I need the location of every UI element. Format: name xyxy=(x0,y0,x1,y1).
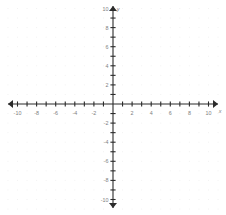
grid-dot xyxy=(17,56,18,57)
grid-dot xyxy=(141,65,142,66)
grid-dot xyxy=(218,170,219,171)
grid-dot xyxy=(27,142,28,143)
grid-dot xyxy=(170,56,171,57)
grid-dot xyxy=(55,209,56,210)
grid-dot xyxy=(84,132,85,133)
grid-dot xyxy=(84,27,85,28)
grid-dot xyxy=(179,65,180,66)
grid-dot xyxy=(84,75,85,76)
grid-dot xyxy=(189,142,190,143)
grid-dot xyxy=(208,65,209,66)
x-axis-tick-label: 10 xyxy=(206,110,212,116)
grid-dot xyxy=(74,189,75,190)
grid-dot xyxy=(208,170,209,171)
grid-dot xyxy=(7,132,8,133)
grid-dot xyxy=(74,18,75,19)
grid-dot xyxy=(179,8,180,9)
grid-dot xyxy=(7,94,8,95)
grid-dot xyxy=(141,123,142,124)
grid-dot xyxy=(179,113,180,114)
grid-dot xyxy=(84,161,85,162)
grid-dot xyxy=(218,199,219,200)
grid-dot xyxy=(7,65,8,66)
grid-dot xyxy=(208,56,209,57)
grid-dot xyxy=(36,151,37,152)
grid-dot xyxy=(7,199,8,200)
grid-dot xyxy=(103,75,104,76)
grid-dot xyxy=(46,142,47,143)
grid-dot xyxy=(7,56,8,57)
grid-dot xyxy=(46,84,47,85)
grid-dot xyxy=(132,94,133,95)
grid-dot xyxy=(189,84,190,85)
grid-dot xyxy=(208,189,209,190)
grid-dot xyxy=(132,37,133,38)
grid-dot xyxy=(179,132,180,133)
grid-dot xyxy=(189,170,190,171)
grid-dot xyxy=(27,189,28,190)
grid-dot xyxy=(141,8,142,9)
grid-dot xyxy=(189,123,190,124)
grid-dot xyxy=(93,8,94,9)
grid-dot xyxy=(170,180,171,181)
grid-dot xyxy=(132,18,133,19)
grid-dot xyxy=(160,209,161,210)
grid-dot xyxy=(160,27,161,28)
grid-dot xyxy=(218,8,219,9)
coordinate-plane-figure: -10-8-6-4-2246810 108642-2-4-6-8-10 x y xyxy=(0,0,226,215)
grid-dot xyxy=(55,65,56,66)
grid-dot xyxy=(151,142,152,143)
grid-dot xyxy=(65,199,66,200)
grid-dot xyxy=(84,123,85,124)
grid-dot xyxy=(55,189,56,190)
grid-dot xyxy=(218,46,219,47)
grid-dot xyxy=(65,27,66,28)
grid-dot xyxy=(122,65,123,66)
grid-dot xyxy=(65,94,66,95)
grid-dot xyxy=(46,132,47,133)
grid-dot xyxy=(17,132,18,133)
grid-dot xyxy=(141,189,142,190)
grid-dot xyxy=(122,209,123,210)
grid-dot xyxy=(17,151,18,152)
grid-dot xyxy=(27,123,28,124)
grid-dot xyxy=(55,8,56,9)
grid-dot xyxy=(46,94,47,95)
grid-dot xyxy=(17,170,18,171)
grid-dot xyxy=(17,142,18,143)
grid-dot xyxy=(122,27,123,28)
grid-dot xyxy=(218,151,219,152)
x-axis-tick-label: -2 xyxy=(92,110,97,116)
grid-dot xyxy=(65,65,66,66)
grid-dot xyxy=(208,37,209,38)
grid-dot xyxy=(132,199,133,200)
grid-dot xyxy=(74,27,75,28)
grid-dot xyxy=(65,132,66,133)
grid-dot xyxy=(27,170,28,171)
grid-dot xyxy=(27,27,28,28)
grid-dot xyxy=(218,142,219,143)
grid-dot xyxy=(198,75,199,76)
grid-dot xyxy=(189,199,190,200)
grid-dot xyxy=(84,151,85,152)
grid-dot xyxy=(55,94,56,95)
grid-dot xyxy=(27,209,28,210)
grid-dot xyxy=(84,113,85,114)
grid-dot xyxy=(198,132,199,133)
grid-dot xyxy=(141,132,142,133)
y-axis-title: y xyxy=(116,6,120,12)
grid-dot xyxy=(84,209,85,210)
grid-dot xyxy=(132,56,133,57)
grid-dot xyxy=(189,75,190,76)
grid-dot xyxy=(170,123,171,124)
grid-dot xyxy=(179,151,180,152)
grid-dot xyxy=(208,75,209,76)
grid-dot xyxy=(218,56,219,57)
grid-dot xyxy=(27,199,28,200)
grid-dot xyxy=(179,27,180,28)
grid-dot xyxy=(27,75,28,76)
grid-dot xyxy=(218,189,219,190)
grid-dot xyxy=(141,84,142,85)
grid-dot xyxy=(27,113,28,114)
grid-dot xyxy=(151,94,152,95)
